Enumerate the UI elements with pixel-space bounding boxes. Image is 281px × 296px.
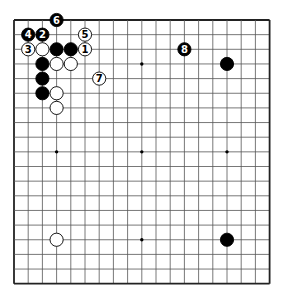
white-stone: 1 [78, 43, 91, 56]
move-number: 5 [82, 29, 89, 40]
white-stone [50, 87, 63, 100]
star-point [140, 238, 143, 241]
black-stone: 8 [178, 43, 191, 56]
move-number: 2 [39, 29, 46, 40]
black-stone [64, 43, 77, 56]
move-number: 3 [25, 44, 32, 55]
white-stone [50, 233, 63, 246]
move-number: 1 [82, 44, 89, 55]
move-number: 4 [25, 29, 32, 40]
white-stone: 3 [22, 43, 35, 56]
white-stone [36, 43, 49, 56]
star-point [140, 150, 143, 153]
move-number: 7 [96, 73, 103, 84]
black-stone [220, 57, 233, 70]
black-stone: 2 [36, 28, 49, 41]
white-stone: 7 [93, 72, 106, 85]
white-stone [64, 57, 77, 70]
black-stone: 4 [22, 28, 35, 41]
white-stone [50, 101, 63, 114]
black-stone: 6 [50, 13, 63, 26]
move-number: 6 [53, 15, 60, 26]
go-board: 64253178 [0, 0, 281, 296]
black-stone [36, 72, 49, 85]
white-stone: 5 [78, 28, 91, 41]
move-number: 8 [181, 44, 188, 55]
black-stone [220, 233, 233, 246]
black-stone [36, 87, 49, 100]
white-stone [50, 57, 63, 70]
black-stone [50, 43, 63, 56]
star-point [55, 150, 58, 153]
black-stone [36, 57, 49, 70]
star-point [140, 62, 143, 65]
star-point [225, 150, 228, 153]
